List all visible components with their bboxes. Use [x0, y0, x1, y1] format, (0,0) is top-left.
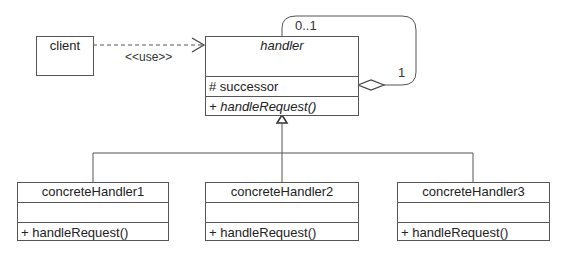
multiplicity-target-label: 0..1: [295, 18, 317, 33]
aggregation-diamond-icon: [358, 80, 384, 90]
attributes-compartment: [398, 202, 549, 222]
generalization-triangle-icon: [277, 115, 287, 123]
class-handler[interactable]: handler # successor + handleRequest(): [205, 36, 359, 116]
class-name: concreteHandler2: [206, 183, 358, 202]
operation-handle-request: + handleRequest(): [206, 222, 358, 242]
class-name: concreteHandler1: [18, 183, 168, 202]
class-name: client: [37, 37, 93, 56]
attributes-compartment: [18, 202, 168, 222]
multiplicity-source-label: 1: [398, 65, 405, 80]
attributes-compartment: [206, 202, 358, 222]
class-concrete-handler-1[interactable]: concreteHandler1 + handleRequest(): [17, 182, 169, 241]
class-client[interactable]: client: [36, 36, 94, 76]
attribute-successor: # successor: [206, 76, 358, 96]
operation-handle-request: + handleRequest(): [398, 222, 549, 242]
operation-handle-request: + handleRequest(): [206, 96, 358, 116]
class-name: concreteHandler3: [398, 183, 549, 202]
class-concrete-handler-3[interactable]: concreteHandler3 + handleRequest(): [397, 182, 550, 241]
operation-handle-request: + handleRequest(): [18, 222, 168, 242]
dependency-stereotype-label: <<use>>: [125, 50, 172, 64]
class-name: handler: [206, 37, 358, 76]
class-concrete-handler-2[interactable]: concreteHandler2 + handleRequest(): [205, 182, 359, 241]
